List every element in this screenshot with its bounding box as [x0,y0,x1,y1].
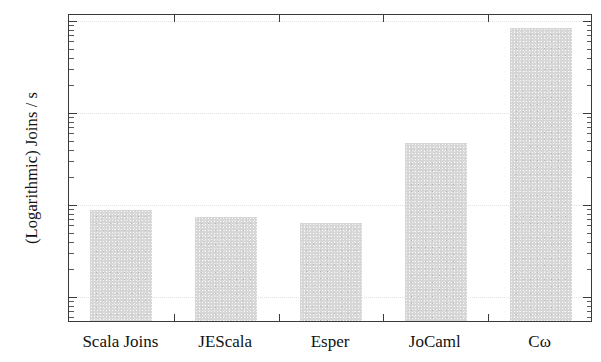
y-axis-minor-tick [587,41,592,42]
y-axis-minor-tick [69,69,74,70]
x-axis-top-tick [279,15,280,22]
x-axis-top-tick [383,15,384,22]
bar-jocaml [405,143,467,321]
x-tick-label-scala-joins: Scala Joins [68,332,173,352]
y-axis-minor-tick [587,317,592,318]
y-axis-minor-tick [69,127,74,128]
y-axis-major-tick [69,21,77,22]
y-axis-minor-tick [69,311,74,312]
y-axis-major-tick [69,297,77,298]
y-axis-minor-tick [587,85,592,86]
y-axis-minor-tick [69,253,74,254]
gridline [69,21,591,23]
y-axis-minor-tick [587,225,592,226]
y-axis-minor-tick [587,133,592,134]
y-axis-minor-tick [69,30,74,31]
x-axis-top-tick [174,15,175,22]
y-axis-minor-tick [587,301,592,302]
y-axis-minor-tick [69,177,74,178]
bar-scala-joins [90,210,152,322]
y-axis-major-tick [583,297,591,298]
y-axis-minor-tick [587,150,592,151]
y-axis-minor-tick [69,58,74,59]
bar-jescala [195,217,257,321]
x-tick-label-jescala: JEScala [173,332,278,352]
y-axis-minor-tick [69,214,74,215]
y-axis-minor-tick [69,49,74,50]
y-axis-minor-tick [69,133,74,134]
x-axis-bottom-tick [383,314,384,321]
y-axis-minor-tick [587,242,592,243]
y-axis-minor-tick [69,161,74,162]
y-axis-minor-tick [69,242,74,243]
y-axis-minor-tick [587,253,592,254]
y-axis-minor-tick [69,225,74,226]
y-axis-minor-tick [69,233,74,234]
y-axis-minor-tick [587,209,592,210]
y-axis-minor-tick [587,306,592,307]
y-axis-minor-tick [69,209,74,210]
y-axis-minor-tick [587,141,592,142]
x-tick-label-esper: Esper [278,332,383,352]
bar-chart-figure: (Logarithmic) Joins / s 107106105104 Sca… [0,0,601,362]
y-axis-minor-tick [69,122,74,123]
y-axis-major-tick [69,205,77,206]
y-axis-minor-tick [69,219,74,220]
y-axis-minor-tick [69,85,74,86]
x-axis-top-tick [488,15,489,22]
y-axis-minor-tick [69,301,74,302]
y-axis-major-tick [69,113,77,114]
y-axis-minor-tick [587,30,592,31]
y-axis-minor-tick [69,35,74,36]
y-axis-minor-tick [69,150,74,151]
y-axis-minor-tick [587,25,592,26]
y-axis-major-tick [583,21,591,22]
y-axis-minor-tick [587,219,592,220]
bar-cω [510,28,572,321]
x-tick-label-cω: Cω [487,332,592,352]
y-axis-minor-tick [69,41,74,42]
y-axis-minor-tick [69,317,74,318]
x-axis-bottom-tick [279,314,280,321]
y-axis-minor-tick [587,69,592,70]
y-axis-minor-tick [587,233,592,234]
y-axis-label: (Logarithmic) Joins / s [22,18,42,318]
y-axis-minor-tick [587,269,592,270]
y-axis-minor-tick [587,117,592,118]
y-axis-minor-tick [69,306,74,307]
y-axis-minor-tick [69,25,74,26]
y-axis-major-tick [583,113,591,114]
y-axis-minor-tick [587,177,592,178]
y-axis-minor-tick [587,127,592,128]
y-axis-minor-tick [587,58,592,59]
y-axis-minor-tick [587,122,592,123]
y-axis-minor-tick [587,311,592,312]
bar-esper [300,223,362,321]
y-axis-minor-tick [587,35,592,36]
y-axis-minor-tick [587,161,592,162]
x-axis-bottom-tick [488,314,489,321]
y-axis-minor-tick [587,49,592,50]
y-axis-major-tick [583,205,591,206]
y-axis-minor-tick [69,117,74,118]
x-axis-bottom-tick [174,314,175,321]
plot-area [68,14,592,322]
y-axis-minor-tick [69,141,74,142]
y-axis-minor-tick [69,269,74,270]
x-tick-label-jocaml: JoCaml [382,332,487,352]
y-axis-minor-tick [587,214,592,215]
